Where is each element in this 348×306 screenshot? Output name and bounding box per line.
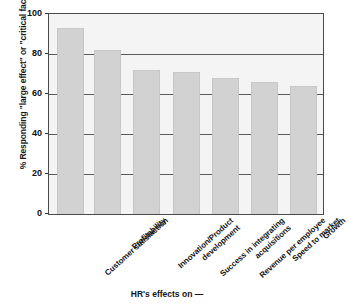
- x-tick-label-line: Profitability: [130, 216, 168, 252]
- x-axis-title: HR's effects on —: [0, 289, 334, 299]
- x-tick-label: Profitability: [130, 216, 168, 252]
